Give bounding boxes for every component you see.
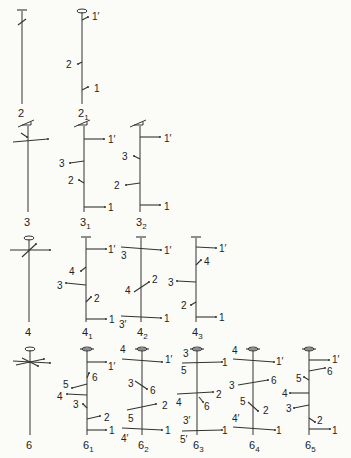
tree-4_2: 1′32413′42 [119,237,172,341]
branch-label: 3 [121,250,127,261]
branch-end-dot [105,361,107,363]
branch-label: 4 [120,344,126,355]
diagram-caption: 4 [25,326,31,338]
diagram-caption: 64 [249,439,260,454]
graph-drawings-svg: 21′212131′321311′3213241′4321411′32413′4… [0,0,351,458]
branch-line [82,17,88,20]
branch-end-dot [303,376,305,378]
branch-line [196,247,216,248]
diagram-caption: 6 [26,439,32,451]
tree-3: 3 [13,120,49,228]
branch-label: 1 [332,425,338,436]
branch-end-dot [49,249,51,251]
branch-label: 1 [165,425,171,436]
branch-end-dot [90,296,92,298]
branch-line [66,283,86,285]
branch-end-dot [43,358,45,360]
branch-end-dot [66,393,68,395]
diagram-caption: 32 [136,216,147,231]
branch-end-dot [215,316,217,318]
branch-line [70,161,84,163]
branch-label: 6 [271,375,277,386]
branch-label: 2 [152,274,158,285]
branch-line [87,416,100,419]
branch-label: 1 [109,425,115,436]
branch-label: 1′ [92,11,100,22]
diagram-caption: 21 [78,107,89,122]
branch-label: 6 [204,401,210,412]
diagram-caption: 3 [24,216,30,228]
branch-line [294,405,309,408]
branch-line [309,418,315,422]
branch-end-dot [26,136,28,138]
branch-label: 1 [164,201,170,212]
branch-end-dot [329,428,331,430]
branch-end-dot [324,367,326,369]
branch-end-dot [80,270,82,272]
branch-label: 1 [276,425,282,436]
branch-end-dot [146,388,148,390]
branch-label: 5 [128,413,134,424]
branch-label: 2 [104,412,110,423]
branch-end-dot [65,282,67,284]
branch-label: 4′ [121,433,129,444]
branch-label: 4′ [232,413,240,424]
branch-label: 1′ [108,134,116,145]
branch-end-dot [35,243,37,245]
tree-3_2: 1′32132 [114,120,172,231]
branch-label: 3 [183,348,189,359]
branch-end-dot [273,361,275,363]
branch-label: 6 [327,366,333,377]
branch-end-dot [49,362,51,364]
branch-line [126,183,140,185]
branch-label: 1 [222,425,228,436]
tree-6_4: 1′4632514′64 [229,345,284,454]
branch-line [67,394,87,395]
diagram-caption: 65 [305,439,316,454]
branch-end-dot [289,392,291,394]
branch-label: 4 [69,266,75,277]
branch-end-dot [160,317,162,319]
branch-label: 2 [263,405,269,416]
branch-end-dot [125,184,127,186]
branch-end-dot [314,421,316,423]
branch-label: 2 [66,59,72,70]
branch-label: 1 [219,312,225,323]
branch-end-dot [37,365,39,367]
branch-line [182,362,222,363]
diagram-caption: 43 [192,326,203,341]
branch-label: 1 [94,83,100,94]
branch-end-dot [87,86,89,88]
branch-end-dot [105,248,107,250]
branch-label: 3 [128,378,134,389]
root-flag-icon [18,120,34,127]
branch-end-dot [161,429,163,431]
branch-end-dot [78,179,80,181]
branch-line [134,156,140,159]
branch-label: 4 [125,285,131,296]
branch-line [177,281,196,282]
branch-line [135,381,147,389]
branch-end-dot [257,410,259,412]
branch-line [82,87,88,90]
diagram-caption: 63 [193,439,204,454]
tree-2_1: 1′2121 [66,9,100,122]
diagram-caption: 61 [83,439,94,454]
branch-label: 2 [162,400,168,411]
branch-line [21,133,27,137]
branch-line [182,430,222,431]
branch-label: 3′ [119,319,127,330]
branch-end-dot [88,372,90,374]
branch-end-dot [215,247,217,249]
branch-label: 3 [59,158,65,169]
branch-label: 5 [181,365,187,376]
branch-label: 2 [216,389,222,400]
branch-line [86,297,91,302]
tree-6: 6 [13,347,51,451]
branch-label: 4 [204,256,210,267]
branch-line [196,260,201,265]
branch-end-dot [99,415,101,417]
branch-label: 4 [176,397,182,408]
branch-end-dot [104,206,106,208]
branch-label: 6 [150,385,156,396]
